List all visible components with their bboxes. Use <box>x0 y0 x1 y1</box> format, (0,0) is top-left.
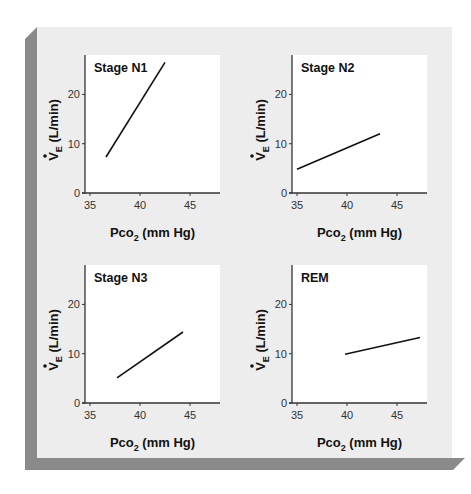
chart-svg: 01020354045Stage N3Pco2 (mm Hg)VE (L/min… <box>38 255 243 465</box>
x-axis-label: Pco2 (mm Hg) <box>317 225 402 243</box>
y-tick-label: 10 <box>275 348 287 360</box>
x-axis-label: Pco2 (mm Hg) <box>110 225 195 243</box>
y-tick-label: 0 <box>281 397 287 409</box>
rate-dot-icon <box>250 364 254 368</box>
x-tick-label: 45 <box>391 199 403 211</box>
y-tick-label: 10 <box>68 348 80 360</box>
panel-title: REM <box>301 271 329 285</box>
x-tick-label: 40 <box>134 199 146 211</box>
plot-area <box>85 55 220 193</box>
plot-area <box>85 265 220 403</box>
panel-title: Stage N2 <box>301 61 355 75</box>
y-tick-label: 0 <box>74 187 80 199</box>
x-tick-label: 45 <box>391 409 403 421</box>
x-tick-label: 35 <box>291 199 303 211</box>
y-axis-label: VE (L/min) <box>46 99 64 161</box>
x-tick-label: 35 <box>84 199 96 211</box>
y-tick-label: 0 <box>281 187 287 199</box>
x-axis-label: Pco2 (mm Hg) <box>110 435 195 453</box>
y-tick-label: 10 <box>68 138 80 150</box>
panel-stage-n1: 01020354045Stage N1Pco2 (mm Hg)VE (L/min… <box>38 45 243 255</box>
panel-title: Stage N3 <box>94 271 148 285</box>
y-tick-label: 20 <box>275 298 287 310</box>
x-tick-label: 45 <box>184 199 196 211</box>
panel-title: Stage N1 <box>94 61 148 75</box>
y-tick-label: 0 <box>74 397 80 409</box>
y-tick-label: 20 <box>68 88 80 100</box>
rate-dot-icon <box>43 364 47 368</box>
y-tick-label: 10 <box>275 138 287 150</box>
panel-stage-n3: 01020354045Stage N3Pco2 (mm Hg)VE (L/min… <box>38 255 243 465</box>
y-tick-label: 20 <box>68 298 80 310</box>
chart-svg: 01020354045Stage N1Pco2 (mm Hg)VE (L/min… <box>38 45 243 255</box>
chart-svg: 01020354045REMPco2 (mm Hg)VE (L/min) <box>245 255 450 465</box>
x-tick-label: 45 <box>184 409 196 421</box>
y-axis-label: VE (L/min) <box>253 99 271 161</box>
y-tick-label: 20 <box>275 88 287 100</box>
rate-dot-icon <box>43 154 47 158</box>
frame-shadow-left <box>25 27 37 470</box>
x-tick-label: 40 <box>134 409 146 421</box>
x-tick-label: 40 <box>341 199 353 211</box>
x-axis-label: Pco2 (mm Hg) <box>317 435 402 453</box>
panel-rem: 01020354045REMPco2 (mm Hg)VE (L/min) <box>245 255 450 465</box>
y-axis-label: VE (L/min) <box>253 309 271 371</box>
y-axis-label: VE (L/min) <box>46 309 64 371</box>
plot-area <box>292 265 427 403</box>
x-tick-label: 40 <box>341 409 353 421</box>
x-tick-label: 35 <box>291 409 303 421</box>
plot-area <box>292 55 427 193</box>
panel-stage-n2: 01020354045Stage N2Pco2 (mm Hg)VE (L/min… <box>245 45 450 255</box>
rate-dot-icon <box>250 154 254 158</box>
x-tick-label: 35 <box>84 409 96 421</box>
chart-svg: 01020354045Stage N2Pco2 (mm Hg)VE (L/min… <box>245 45 450 255</box>
